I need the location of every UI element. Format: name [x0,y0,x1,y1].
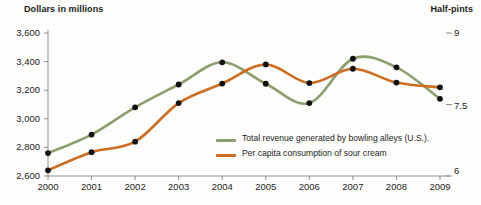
data-point [176,82,182,88]
data-point [263,62,269,68]
x-axis-tick-label: 2009 [420,181,460,192]
legend-swatch-1 [216,154,236,157]
data-point [132,104,138,110]
x-axis-tick-label: 2000 [28,181,68,192]
data-point [89,149,95,155]
x-axis-tick-label: 2005 [246,181,286,192]
data-point [45,150,51,156]
data-point [132,139,138,145]
data-point [176,100,182,106]
x-axis-tick-label: 2004 [202,181,242,192]
data-point [394,64,400,70]
data-point [89,132,95,138]
data-point [350,56,356,62]
data-point [306,100,312,106]
data-point [219,81,225,87]
x-axis-tick-label: 2008 [376,181,416,192]
data-point [306,80,312,86]
data-point [45,167,51,173]
data-point [350,66,356,72]
data-point [437,96,443,102]
y-axis-tick-label: 3,400 [0,56,40,67]
legend-swatch-0 [216,139,236,142]
right-axis-tick-label: 6 [454,165,459,176]
data-point [219,59,225,65]
x-axis-tick-label: 2006 [289,181,329,192]
data-point [263,81,269,87]
x-axis-tick-label: 2007 [333,181,373,192]
legend-label-0: Total revenue generated by bowling alley… [242,133,429,143]
legend-label-1: Per capita consumption of sour cream [242,148,387,158]
data-point [394,80,400,86]
y-axis-tick-label: 2,600 [0,170,40,181]
x-axis-tick-label: 2002 [115,181,155,192]
chart-container: Dollars in millions Half-pints 3,6003,40… [0,0,481,205]
y-axis-tick-label: 2,800 [0,141,40,152]
plot-area [0,0,481,205]
x-axis-tick-label: 2003 [159,181,199,192]
y-axis-tick-label: 3,200 [0,84,40,95]
data-point [437,84,443,90]
y-axis-tick-label: 3,600 [0,27,40,38]
y-axis-tick-label: 3,000 [0,113,40,124]
right-axis-tick-label: 9 [454,27,459,38]
right-axis-tick-label: 7.5 [454,100,467,111]
x-axis-tick-label: 2001 [72,181,112,192]
